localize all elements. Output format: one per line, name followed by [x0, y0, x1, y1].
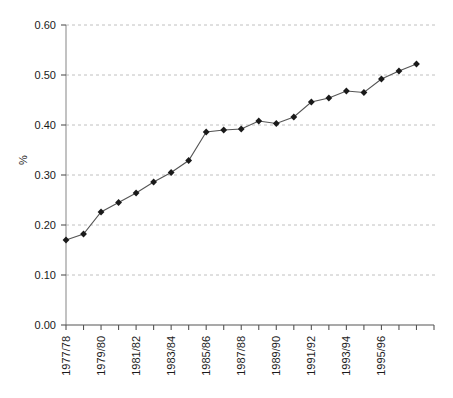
y-axis-tick-label: 0.50: [35, 69, 56, 81]
data-point-marker: [203, 129, 210, 136]
y-axis-title: %: [17, 155, 29, 165]
x-axis-tick-label: 1979/80: [95, 336, 107, 376]
data-point-marker: [185, 157, 192, 164]
data-point-marker: [63, 237, 70, 244]
x-axis-tick-label: 1981/82: [130, 336, 142, 376]
y-axis-tick-label: 0.30: [35, 169, 56, 181]
y-axis-tick-label: 0.10: [35, 269, 56, 281]
data-point-marker: [396, 68, 403, 75]
data-point-marker: [273, 120, 280, 127]
chart-container: 0.000.100.200.300.400.500.60 1977/781979…: [0, 0, 453, 398]
x-axis-tick-label: 1983/84: [165, 336, 177, 376]
x-axis-labels-group: 1977/781979/801981/821983/841985/861987/…: [60, 336, 387, 376]
data-point-marker: [133, 190, 140, 197]
line-chart: 0.000.100.200.300.400.500.60 1977/781979…: [0, 0, 453, 398]
data-point-marker: [325, 95, 332, 102]
data-point-marker: [220, 127, 227, 134]
x-axis-tick-label: 1991/92: [305, 336, 317, 376]
y-axis-ticks-group: 0.000.100.200.300.400.500.60: [35, 19, 66, 331]
data-point-marker: [255, 118, 262, 125]
x-axis-ticks-group: [66, 325, 434, 330]
x-axis-tick-label: 1985/86: [200, 336, 212, 376]
y-axis-tick-label: 0.40: [35, 119, 56, 131]
y-axis-tick-label: 0.60: [35, 19, 56, 31]
x-axis-tick-label: 1977/78: [60, 336, 72, 376]
x-axis-tick-label: 1987/88: [235, 336, 247, 376]
data-point-marker: [343, 88, 350, 95]
data-point-marker: [150, 179, 157, 186]
x-axis-tick-label: 1989/90: [270, 336, 282, 376]
x-axis-tick-label: 1993/94: [340, 336, 352, 376]
y-axis-tick-label: 0.00: [35, 319, 56, 331]
y-axis-tick-label: 0.20: [35, 219, 56, 231]
data-point-marker: [115, 199, 122, 206]
series-markers-group: [63, 61, 420, 244]
gridlines-group: [66, 25, 438, 275]
x-axis-tick-label: 1995/96: [375, 336, 387, 376]
data-point-marker: [413, 61, 420, 68]
data-point-marker: [238, 126, 245, 133]
